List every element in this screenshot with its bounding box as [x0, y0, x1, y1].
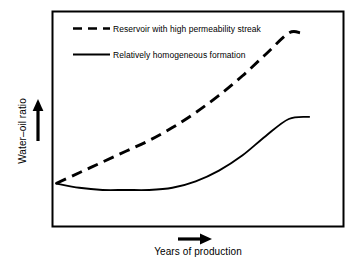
plot-frame: [53, 12, 344, 227]
x-axis-label: Years of production: [52, 246, 344, 257]
legend-label-high-permeability: Reservoir with high permeability streak: [113, 24, 261, 34]
chart-figure: [0, 0, 363, 273]
y-axis-label: Water–oil ratio: [17, 98, 28, 164]
legend-label-homogeneous: Relatively homogeneous formation: [113, 50, 245, 60]
